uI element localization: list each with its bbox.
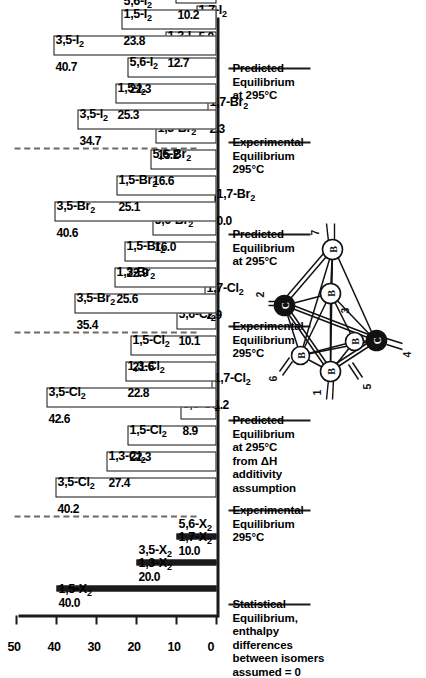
bar-series-label: 1,5-X2 — [58, 581, 91, 598]
bar-value-label: 0.0 — [216, 213, 231, 227]
bar-value-label: 22.8 — [127, 385, 148, 399]
bar-series-label: 3,5-Cl2 — [48, 384, 85, 401]
column-group-separator — [14, 147, 196, 149]
bar-value-label: 21.6 — [132, 359, 153, 373]
axis-tick — [135, 615, 137, 624]
bar-series-label: 3,5-Br2 — [76, 290, 114, 307]
bar-series-label: 3,5-I2 — [55, 32, 83, 49]
bar-value-label: 10.1 — [178, 333, 199, 347]
bar-series-label: 1,5-Br2 — [118, 172, 156, 189]
svg-text:B: B — [295, 351, 306, 358]
column-group-separator — [14, 331, 196, 333]
svg-text:1: 1 — [310, 389, 322, 395]
axis-tick — [215, 615, 217, 624]
bar-value-label: 16.0 — [154, 239, 175, 253]
bar-series-label: 1,5-Cl2 — [132, 332, 169, 349]
bar-value-label: 40.6 — [56, 225, 77, 239]
column-caption: Experimental Equilibrium 295°C — [232, 503, 324, 544]
column-caption: Predicted Equilibrium at 295°C — [232, 61, 324, 102]
bar-value-label: 27.4 — [108, 475, 129, 489]
bar-series-label: 5,6-I2 — [129, 54, 157, 71]
molecule-svg: B C B C B B B 1 2 3 4 5 6 7 — [250, 221, 415, 401]
svg-text:B: B — [327, 245, 338, 252]
bar-series-label: 5,6-X2 — [178, 516, 211, 533]
bar-series-label: 1,7-Cl2 — [213, 370, 250, 387]
axis-tick-label: 0 — [207, 639, 214, 653]
bar-value-label: 16.6 — [152, 173, 173, 187]
bar-value-label: 42.6 — [48, 411, 69, 425]
bar-series-label: 3,5-I2 — [79, 106, 107, 123]
bar-value-label: 25.6 — [116, 291, 137, 305]
axis-tick — [55, 615, 57, 624]
axis-tick — [15, 615, 17, 624]
bar-value-label: 34.7 — [79, 133, 100, 147]
bar-value-label: 40.7 — [55, 59, 76, 73]
axis-tick-label: 20 — [127, 639, 140, 653]
bar-series-label: 1,5-Cl2 — [129, 422, 166, 439]
bar-value-label: 25.3 — [117, 107, 138, 121]
bar-series-label: 3,5-Cl2 — [57, 474, 94, 491]
carborane-cluster-diagram: B C B C B B B 1 2 3 4 5 6 7 — [250, 221, 415, 401]
svg-text:3: 3 — [338, 307, 350, 313]
axis-tick-label: 30 — [87, 639, 100, 653]
svg-text:2: 2 — [253, 291, 265, 297]
bar-value-label: 22.3 — [129, 81, 150, 95]
bar-value-label: 12.7 — [167, 55, 188, 69]
svg-text:B: B — [325, 367, 336, 374]
svg-text:4: 4 — [400, 351, 412, 357]
column-group-separator — [14, 515, 196, 517]
axis-tick — [175, 615, 177, 624]
column-caption: Statistical Equilibrium, enthalpy differ… — [232, 597, 324, 678]
axis-tick-label: 10 — [167, 639, 180, 653]
svg-text:C: C — [279, 301, 290, 308]
bar-value-label: 8.9 — [182, 423, 197, 437]
bar-series-label: 5,6-I2 — [123, 0, 151, 10]
svg-text:7: 7 — [308, 229, 320, 235]
bar-value-label: 23.8 — [123, 33, 144, 47]
bar-series-label: 3,5-Br2 — [56, 198, 94, 215]
svg-text:5: 5 — [360, 383, 372, 389]
axis-tick-label: 50 — [7, 639, 20, 653]
bar-value-label: 22.3 — [129, 449, 150, 463]
bar-series-label: 1,7-Br2 — [216, 186, 254, 203]
svg-text:B: B — [349, 337, 360, 344]
bar-value-label: 25.1 — [118, 199, 139, 213]
bar[interactable] — [175, 0, 216, 3]
column-caption: Predicted Equilibrium at 295°C from ΔH a… — [232, 413, 324, 494]
bar-value-label: 10.2 — [177, 7, 198, 21]
svg-text:6: 6 — [266, 375, 278, 381]
column-caption: Experimental Equilibrium 295°C — [232, 135, 324, 176]
bar-value-label: 22.9 — [126, 265, 147, 279]
axis-tick — [95, 615, 97, 624]
svg-text:B: B — [325, 289, 336, 296]
bar-value-label: 40.2 — [57, 501, 78, 515]
y-axis-line — [18, 615, 218, 618]
axis-tick-label: 40 — [47, 639, 60, 653]
svg-text:C: C — [371, 336, 382, 343]
bar-value-label: 35.4 — [76, 317, 97, 331]
bar-series-label: 3,5-X2 — [138, 542, 171, 559]
